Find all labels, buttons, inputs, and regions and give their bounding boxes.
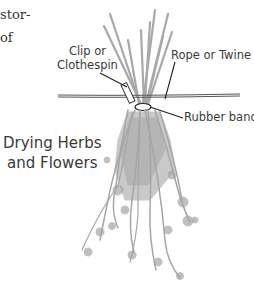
- illustration-title: Drying Herbs and Flowers: [3, 133, 102, 173]
- rubber-band-label: Rubber band: [184, 112, 254, 124]
- clip-label-line2: Clothespin: [57, 58, 118, 72]
- clothespin-label: Clip or Clothespin: [57, 44, 118, 72]
- title-line1: Drying Herbs: [3, 133, 102, 153]
- rubber-band-icon: [135, 104, 151, 111]
- title-line2: and Flowers: [3, 153, 102, 173]
- clip-label-line1: Clip or: [57, 44, 118, 58]
- drying-herbs-illustration: stor- of: [0, 0, 254, 286]
- rope-label: Rope or Twine: [171, 50, 251, 62]
